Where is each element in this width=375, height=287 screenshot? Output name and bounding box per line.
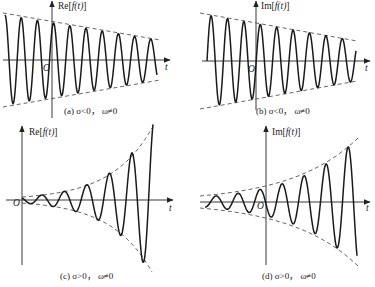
- caption-a: (a) σ<0， ω≠0: [64, 107, 117, 116]
- origin-label-a: O: [43, 64, 50, 74]
- t-axis-label-b: t: [365, 64, 368, 74]
- upper-envelope: [200, 138, 358, 196]
- caption-b: (b) σ<0， ω≠0: [256, 107, 310, 116]
- caption-c: (c) σ>0， ω≠0: [60, 272, 113, 281]
- panel-a: [3, 1, 170, 118]
- upper-envelope: [3, 13, 160, 40]
- origin-label-d: O: [257, 202, 264, 212]
- panel-c: [6, 124, 173, 272]
- panel-d: [200, 126, 370, 266]
- t-axis-label-a: t: [165, 63, 168, 73]
- origin-label-c: O: [13, 199, 20, 209]
- t-axis-label-c: t: [169, 204, 172, 214]
- y-axis-label-a: Re[f(t)]: [58, 2, 87, 12]
- oscillation-curve: [205, 147, 357, 256]
- oscillation-curve: [5, 15, 157, 104]
- y-axis-label-b: Im[f(t)]: [261, 2, 290, 12]
- oscillation-curve: [22, 124, 153, 262]
- upper-envelope: [22, 128, 152, 197]
- lower-envelope: [22, 203, 152, 272]
- figure-canvas: [0, 0, 375, 287]
- panel-b: [200, 1, 370, 110]
- origin-label-b: O: [248, 65, 255, 75]
- caption-d: (d) σ>0， ω≠0: [262, 272, 316, 281]
- oscillation-curve: [207, 16, 356, 105]
- y-axis-label-c: Re[f(t)]: [29, 128, 58, 138]
- y-axis-label-d: Im[f(t)]: [272, 128, 301, 138]
- t-axis-label-d: t: [366, 204, 369, 214]
